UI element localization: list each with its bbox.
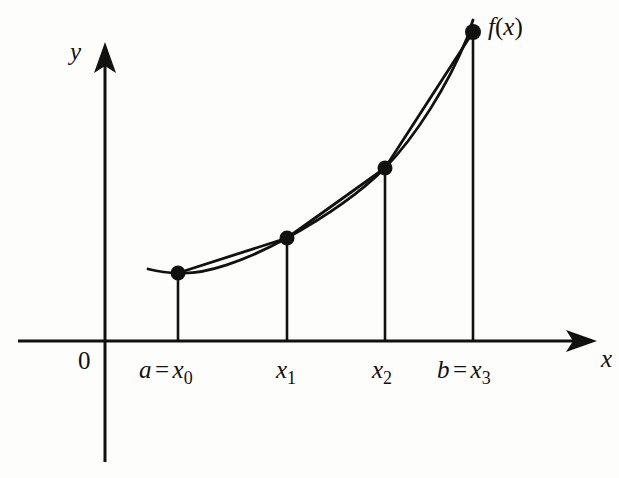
node-marker-x0 — [171, 266, 186, 281]
figure-canvas — [0, 0, 619, 478]
origin-label: 0 — [78, 348, 91, 373]
tick-label-x3-base: x — [471, 356, 482, 383]
tick-label-x1: x1 — [276, 357, 296, 382]
tick-label-x0-base: x — [173, 356, 184, 383]
tick-label-x3-subscript: 3 — [482, 368, 491, 388]
tick-label-x3-equals: = — [450, 356, 471, 383]
tick-label-x2: x2 — [372, 357, 392, 382]
tick-label-x3: b=x3 — [437, 357, 491, 382]
trapezoid-chords — [178, 32, 473, 273]
function-label-argument: x — [503, 13, 514, 40]
trapezoidal-rule-figure: y x 0 f(x) a=x0 x1 x2 b=x3 — [0, 0, 619, 478]
function-label-fx: f(x) — [488, 14, 523, 39]
tick-label-x2-base: x — [372, 356, 383, 383]
node-marker-x3 — [465, 24, 481, 40]
tick-label-x0-subscript: 0 — [184, 368, 193, 388]
function-curve — [148, 20, 473, 273]
function-label-close-paren: ) — [514, 13, 522, 40]
tick-label-x0-prefix: a — [139, 356, 152, 383]
tick-label-x1-subscript: 1 — [287, 368, 296, 388]
ordinate-lines-group — [178, 32, 473, 341]
function-label-f: f — [488, 13, 495, 40]
tick-label-x2-subscript: 2 — [383, 368, 392, 388]
tick-label-x0: a=x0 — [139, 357, 193, 382]
tick-label-x3-prefix: b — [437, 356, 450, 383]
node-marker-x1 — [280, 231, 295, 246]
node-marker-x2 — [378, 161, 393, 176]
axes-group — [18, 42, 597, 462]
tick-label-x1-base: x — [276, 356, 287, 383]
x-axis-label: x — [601, 346, 612, 371]
node-markers-group — [171, 24, 482, 281]
tick-label-x0-equals: = — [152, 356, 173, 383]
y-axis-label: y — [70, 39, 81, 64]
